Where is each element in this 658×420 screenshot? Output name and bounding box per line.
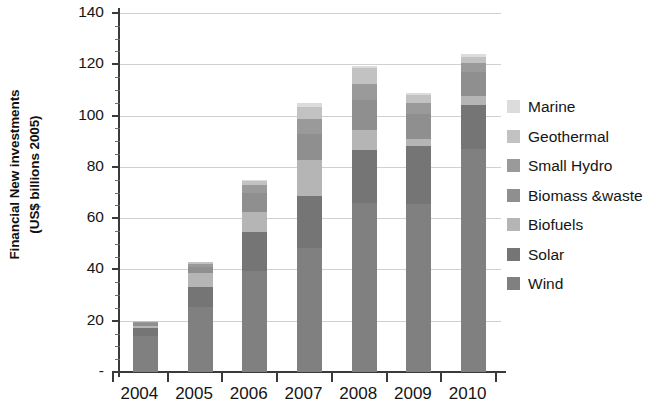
bar-segment-biofuels [352, 130, 377, 151]
legend-item-solar[interactable]: Solar [507, 240, 658, 270]
bar-segment-biomass-waste [297, 134, 322, 161]
bar-2009 [406, 93, 431, 372]
x-axis-tick [440, 373, 442, 382]
bar-segment-geothermal [406, 95, 431, 103]
x-axis-tick-label: 2009 [385, 384, 441, 404]
x-axis-tick [167, 373, 169, 382]
legend-label: Biomass &waste [528, 188, 643, 204]
legend-label: Solar [528, 247, 564, 263]
bar-segment-small-hydro [352, 84, 377, 101]
bar-segment-wind [352, 203, 377, 372]
legend-swatch-icon [507, 277, 520, 290]
bar-series-container [118, 13, 501, 372]
x-axis-tick [331, 373, 333, 382]
y-axis-tick-label: 100 [78, 107, 104, 123]
bar-segment-wind [188, 307, 213, 372]
bar-segment-geothermal [297, 107, 322, 120]
y-axis-tick-label: 60 [87, 209, 104, 225]
bar-segment-wind [133, 336, 158, 372]
bar-segment-solar [352, 150, 377, 203]
x-axis-tick-label: 2008 [330, 384, 386, 404]
x-axis-tick [495, 373, 497, 382]
bar-segment-geothermal [352, 68, 377, 83]
bar-segment-biomass-waste [406, 114, 431, 138]
bar-segment-biomass-waste [242, 193, 267, 212]
bar-2007 [297, 103, 322, 372]
legend-label: Wind [528, 276, 563, 292]
bar-segment-wind [461, 149, 486, 372]
x-axis-tick-label: 2006 [221, 384, 277, 404]
legend-item-wind[interactable]: Wind [507, 269, 658, 299]
bar-segment-wind [297, 248, 322, 372]
y-axis-tick-label: 80 [87, 158, 104, 174]
legend-item-small-hydro[interactable]: Small Hydro [507, 151, 658, 181]
legend-label: Geothermal [528, 129, 609, 145]
legend-swatch-icon [507, 189, 520, 202]
legend-label: Small Hydro [528, 158, 612, 174]
y-axis-tick-label: 40 [87, 260, 104, 276]
bar-segment-solar [133, 328, 158, 336]
legend: MarineGeothermalSmall HydroBiomass &wast… [507, 92, 658, 299]
legend-swatch-icon [507, 218, 520, 231]
x-axis-tick [221, 373, 223, 382]
legend-item-biofuels[interactable]: Biofuels [507, 210, 658, 240]
legend-label: Marine [528, 99, 575, 115]
bar-segment-small-hydro [461, 63, 486, 72]
legend-swatch-icon [507, 159, 520, 172]
x-axis-tick-label: 2004 [111, 384, 167, 404]
legend-label: Biofuels [528, 217, 583, 233]
bar-segment-biofuels [406, 139, 431, 147]
bar-segment-solar [242, 232, 267, 270]
bar-segment-solar [461, 105, 486, 149]
x-axis-tick [112, 373, 114, 382]
x-axis-tick-label: 2010 [440, 384, 496, 404]
bar-2010 [461, 54, 486, 372]
x-axis-tick [276, 373, 278, 382]
bar-segment-wind [242, 271, 267, 372]
x-axis-ticks [0, 373, 658, 383]
bar-segment-biomass-waste [461, 72, 486, 96]
x-axis-tick-labels: 2004200520062007200820092010 [0, 384, 658, 416]
bar-segment-solar [406, 146, 431, 204]
x-axis-tick-label: 2005 [166, 384, 222, 404]
bar-segment-biofuels [188, 273, 213, 287]
x-axis-tick-label: 2007 [276, 384, 332, 404]
y-axis-tick-label: 120 [78, 55, 104, 71]
legend-item-marine[interactable]: Marine [507, 92, 658, 122]
bar-segment-biomass-waste [352, 100, 377, 129]
bar-2004 [133, 321, 158, 372]
bar-segment-solar [188, 287, 213, 306]
y-axis-tick-labels: -20406080100120140 [0, 0, 112, 390]
bar-segment-wind [406, 204, 431, 372]
stacked-bar-chart: Financial New investments(US$ billions 2… [0, 0, 658, 420]
bar-2005 [188, 262, 213, 372]
bar-2008 [352, 66, 377, 372]
bar-segment-small-hydro [242, 185, 267, 193]
bar-segment-biofuels [461, 96, 486, 105]
bar-segment-small-hydro [297, 119, 322, 133]
legend-item-biomass-waste[interactable]: Biomass &waste [507, 181, 658, 211]
x-axis-tick [386, 373, 388, 382]
y-axis-tick-label: 140 [78, 4, 104, 20]
legend-swatch-icon [507, 248, 520, 261]
bar-2006 [242, 180, 267, 372]
legend-swatch-icon [507, 100, 520, 113]
bar-segment-biofuels [297, 160, 322, 196]
legend-item-geothermal[interactable]: Geothermal [507, 122, 658, 152]
bar-segment-solar [297, 196, 322, 247]
legend-swatch-icon [507, 130, 520, 143]
bar-segment-small-hydro [406, 103, 431, 115]
y-axis-tick-label: 20 [87, 312, 104, 328]
bar-segment-biofuels [242, 212, 267, 233]
